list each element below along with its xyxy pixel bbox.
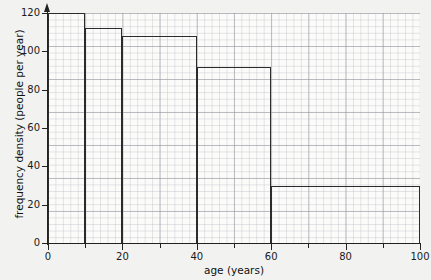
- histogram-bar: [48, 13, 85, 243]
- x-tick-major: [197, 244, 198, 250]
- x-tick-major: [48, 244, 49, 250]
- x-tick-minor: [234, 244, 235, 248]
- x-tick-label: 0: [33, 252, 63, 262]
- x-tick-minor: [383, 244, 384, 248]
- x-tick-major: [346, 244, 347, 250]
- x-tick-minor: [85, 244, 86, 248]
- histogram-bar: [271, 186, 420, 244]
- x-tick-label: 20: [107, 252, 137, 262]
- x-tick-major: [420, 244, 421, 250]
- x-tick-minor: [308, 244, 309, 248]
- y-axis-title: frequency density (people per year): [13, 9, 25, 239]
- y-tick: [42, 243, 47, 244]
- x-tick-major: [122, 244, 123, 250]
- histogram-chart: 020406080100120 020406080100 age (years)…: [0, 0, 431, 280]
- y-tick: [42, 166, 47, 167]
- x-tick-label: 40: [182, 252, 212, 262]
- y-axis-arrow-icon: [44, 3, 50, 12]
- histogram-bar: [122, 36, 196, 243]
- x-tick-label: 80: [331, 252, 361, 262]
- x-tick-major: [271, 244, 272, 250]
- histogram-bar: [85, 28, 122, 243]
- y-tick: [42, 90, 47, 91]
- histogram-bar: [197, 67, 271, 243]
- y-tick-label: 0: [0, 238, 40, 248]
- x-axis-title: age (years): [48, 264, 420, 276]
- y-tick: [42, 51, 47, 52]
- y-tick: [42, 205, 47, 206]
- y-tick: [42, 128, 47, 129]
- x-tick-minor: [160, 244, 161, 248]
- x-tick-label: 100: [405, 252, 431, 262]
- x-tick-label: 60: [256, 252, 286, 262]
- y-tick: [42, 13, 47, 14]
